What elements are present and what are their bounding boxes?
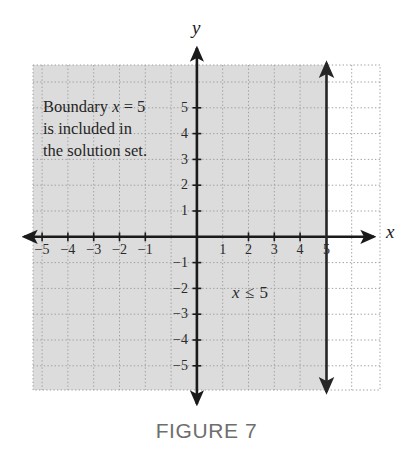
y-axis-label: y — [192, 18, 200, 37]
boundary-annotation-variable: x — [112, 97, 119, 116]
figure-7: y x −5 −4 −3 −2 −1 1 2 3 4 5 5 4 3 2 1 −… — [0, 0, 413, 459]
inequality-label: x ≤ 5 — [232, 283, 268, 303]
y-tick-label-neg5: −5 — [160, 359, 188, 373]
inequality-relation: ≤ 5 — [240, 283, 268, 302]
y-tick-label-neg1: −1 — [160, 256, 188, 270]
x-axis-label: x — [386, 222, 394, 241]
x-tick-label-neg1: −1 — [133, 243, 157, 257]
x-tick-label-neg5: −5 — [30, 243, 54, 257]
x-tick-label-neg3: −3 — [82, 243, 106, 257]
boundary-annotation-line-2: is included in — [43, 118, 193, 140]
y-tick-label-neg4: −4 — [160, 333, 188, 347]
boundary-annotation-prefix: Boundary — [43, 97, 112, 116]
y-tick-label-neg2: −2 — [160, 282, 188, 296]
x-tick-label-neg4: −4 — [56, 243, 80, 257]
boundary-annotation-line-1: Boundary x = 5 — [43, 96, 193, 118]
boundary-annotation-value: = 5 — [120, 97, 146, 116]
y-tick-label-2: 2 — [164, 178, 188, 192]
figure-caption: FIGURE 7 — [0, 419, 413, 443]
boundary-annotation: Boundary x = 5 is included in the soluti… — [43, 96, 193, 162]
x-tick-label-1: 1 — [215, 243, 231, 257]
x-tick-label-4: 4 — [292, 243, 308, 257]
plot-svg — [0, 0, 413, 410]
x-tick-label-3: 3 — [266, 243, 282, 257]
boundary-annotation-line-3: the solution set. — [43, 140, 193, 162]
x-tick-label-5: 5 — [319, 243, 335, 257]
coordinate-plane: y x −5 −4 −3 −2 −1 1 2 3 4 5 5 4 3 2 1 −… — [0, 0, 413, 410]
x-tick-label-neg2: −2 — [108, 243, 132, 257]
x-tick-label-2: 2 — [241, 243, 257, 257]
y-tick-label-neg3: −3 — [160, 307, 188, 321]
inequality-variable: x — [232, 283, 240, 302]
y-tick-label-1: 1 — [164, 204, 188, 218]
